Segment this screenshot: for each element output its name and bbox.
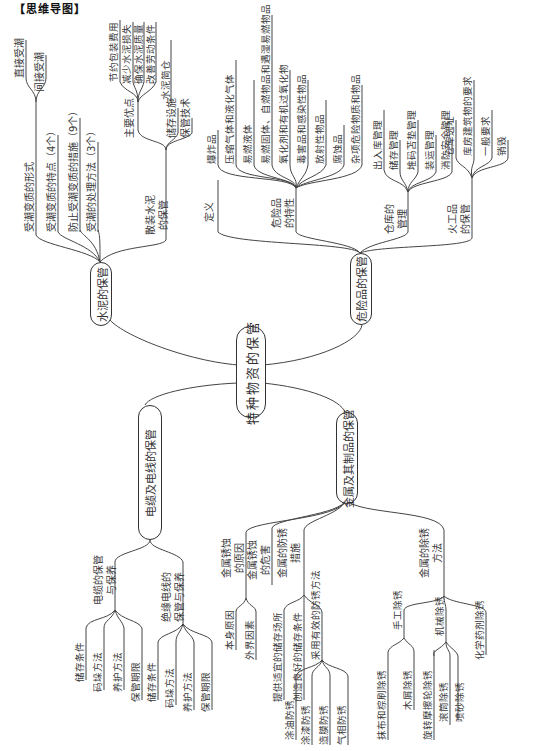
rm-drum: 滚筒除锈 xyxy=(438,682,450,722)
adv-labor: 改善劳动条件 xyxy=(145,24,157,84)
cause-internal: 本身原因 xyxy=(224,610,236,650)
feat-radioactive: 放射性物品 xyxy=(314,114,326,164)
eff-film: 造膜防锈 xyxy=(318,705,330,745)
cement-damp-forms: 受潮变质的形式 xyxy=(24,162,36,232)
branch-cable-label: 电缆及电线的保管 xyxy=(142,429,158,517)
eff-vapor: 气相防锈 xyxy=(336,705,348,745)
branch-cable-node[interactable]: 电缆及电线的保管 xyxy=(138,405,162,540)
wire-period: 保管期限 xyxy=(200,672,212,712)
feat-misc: 杂项危险物质和物品 xyxy=(350,74,362,164)
feat-flammable-solid: 易燃固体、自燃物品和遇湿易燃物品 xyxy=(260,4,272,164)
hazmat-definition: 定义 xyxy=(204,202,216,222)
adv-packaging: 节约包装费用 xyxy=(108,22,120,82)
exp-building: 库房建筑物的要求 xyxy=(462,76,474,156)
branch-cement-label: 水泥的保管 xyxy=(93,267,109,322)
prev-effective: 采用有效的防锈方法 xyxy=(310,570,322,660)
wire-care: 绝缘电线的 保管与保养 xyxy=(160,572,186,622)
eff-paint: 涂漆防锈 xyxy=(300,705,312,745)
cement-treat: 受潮的处理方法（3个） xyxy=(86,126,98,232)
eff-oil: 涂油防锈 xyxy=(284,700,296,740)
cement-prevent: 防止受潮变质的措施（9个） xyxy=(68,106,80,232)
rm-mechanical: 机械除锈 xyxy=(434,596,446,636)
prev-condition: 创造良好的储存条件 xyxy=(292,612,304,702)
root-node[interactable]: 特种物资的保管 xyxy=(236,326,266,418)
cable-period: 保管期限 xyxy=(130,662,142,702)
cable-storage: 储存条件 xyxy=(74,642,86,682)
metal-prevention: 金属的防锈 措施 xyxy=(276,528,302,578)
cement-bulk: 散装水泥 的保管 xyxy=(144,195,170,235)
feat-gas: 压缩气体和液化气体 xyxy=(224,74,236,164)
cement-storage-facility: 储存设施 xyxy=(166,98,178,138)
hazmat-warehouse: 仓库的 管理 xyxy=(383,204,409,234)
rm-chemical: 化学药剂除锈 xyxy=(474,600,486,660)
cable-stacking: 码垛方法 xyxy=(92,652,104,692)
exp-destroy: 销毁 xyxy=(496,136,508,156)
adv-quality: 确保水泥质量 xyxy=(133,24,145,84)
prev-site: 提供适宜的储存场所 xyxy=(272,612,284,702)
branch-cement-node[interactable]: 水泥的保管 xyxy=(90,262,112,326)
wh-inout: 出入库管理 xyxy=(372,120,384,170)
rm-manual: 手工除锈 xyxy=(392,590,404,630)
metal-harm: 金属锈蚀 的危害 xyxy=(246,540,272,580)
cement-direct-damp: 直接受潮 xyxy=(14,38,26,78)
feat-oxidizer: 氧化剂和有机过氧化物 xyxy=(278,64,290,164)
metal-removal: 金属的除锈 方法 xyxy=(418,528,444,578)
rm-cloth: 抹布和棕刷除锈 xyxy=(376,670,388,740)
branch-metal-node[interactable]: 金属及其制品的保管 xyxy=(336,412,358,504)
cause-external: 外界因素 xyxy=(244,620,256,660)
branch-metal-label: 金属及其制品的保管 xyxy=(339,409,355,508)
adv-loss: 减少水泥损失 xyxy=(121,24,133,84)
wh-stacking: 堆码苫垫管理 xyxy=(406,110,418,170)
wire-stacking: 码垛方法 xyxy=(164,668,176,708)
cement-advantages: 主要优点 xyxy=(124,98,136,138)
rm-sandblast: 喷砂除锈 xyxy=(454,682,466,722)
wh-storage: 储存管理 xyxy=(388,130,400,170)
feat-flammable-liquid: 易燃液体 xyxy=(242,124,254,164)
cement-indirect-damp: 间接受潮 xyxy=(34,52,46,92)
adv-silo: 水泥简仓 xyxy=(160,60,172,100)
hazmat-explosives: 火工品 的保管 xyxy=(446,204,472,234)
cable-maintain: 养护方法 xyxy=(112,652,124,692)
rm-wheel: 旋转摩擦轮除锈 xyxy=(422,670,434,740)
feat-corrosive: 腐蚀品 xyxy=(332,134,344,164)
cement-storage-tech: 保管技术 xyxy=(180,98,192,138)
branch-hazmat-label: 危险品的保管 xyxy=(353,256,369,322)
wire-maintain: 养护方法 xyxy=(182,672,194,712)
rm-sawdust: 木屑除锈 xyxy=(402,670,414,710)
metal-cause: 金属锈蚀 的原因 xyxy=(220,538,246,578)
cable-care: 电缆的保管 与保养 xyxy=(92,555,118,605)
wh-loading: 装运管理 xyxy=(424,130,436,170)
feat-toxic: 毒害品和感染性物品 xyxy=(296,74,308,164)
cement-damp-features: 受潮变质的特点（4个） xyxy=(46,126,58,232)
exp-site: 仓库选址 xyxy=(444,116,456,156)
root-label: 特种物资的保管 xyxy=(242,320,261,425)
feat-explosive: 爆炸品 xyxy=(206,134,218,164)
exp-general: 一般要求 xyxy=(480,116,492,156)
hazmat-features: 危险品 的特性 xyxy=(270,198,296,228)
branch-hazmat-node[interactable]: 危险品的保管 xyxy=(350,253,372,325)
wire-storage: 储存条件 xyxy=(146,662,158,702)
